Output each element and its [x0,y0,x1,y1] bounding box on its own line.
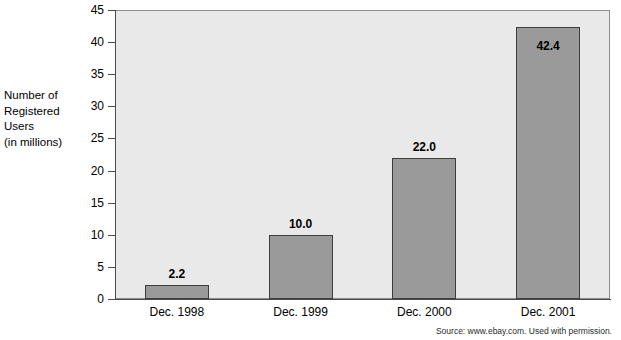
y-axis-tick-label: 45 [78,4,104,16]
y-axis-tick-label: 25 [78,132,104,144]
y-axis-tick [108,10,115,11]
x-axis-line [115,299,611,300]
bar [145,285,209,299]
y-axis-tick-label: 30 [78,100,104,112]
y-axis-tick-label: 40 [78,36,104,48]
x-axis-category-label: Dec. 1998 [127,305,227,319]
y-axis-tick-label: 15 [78,197,104,209]
y-axis-tick [108,106,115,107]
x-axis-category-label: Dec. 2000 [374,305,474,319]
y-axis-tick [108,138,115,139]
y-axis-tick [108,203,115,204]
y-axis-tick [108,171,115,172]
bar [269,235,333,299]
bar-value-label: 10.0 [271,218,331,230]
x-axis-category-label: Dec. 1999 [251,305,351,319]
y-axis-tick-label: 10 [78,229,104,241]
bar [516,27,580,299]
bar-value-label: 42.4 [518,40,578,52]
bar-value-label: 2.2 [147,268,207,280]
y-axis-tick-label: 5 [78,261,104,273]
y-axis-tick [108,267,115,268]
y-axis-tick-label: 35 [78,68,104,80]
y-axis-line [115,10,116,300]
x-axis-category-label: Dec. 2001 [498,305,598,319]
bar-chart-figure: Number of Registered Users (in millions)… [0,0,621,340]
y-axis-tick-label: 20 [78,165,104,177]
y-axis-tick [108,74,115,75]
y-axis-tick-label: 0 [78,293,104,305]
y-axis-tick [108,235,115,236]
y-axis-tick [108,42,115,43]
bar-value-label: 22.0 [394,141,454,153]
bar [392,158,456,299]
y-axis-tick [108,299,115,300]
source-note: Source: www.ebay.com. Used with permissi… [436,326,612,337]
